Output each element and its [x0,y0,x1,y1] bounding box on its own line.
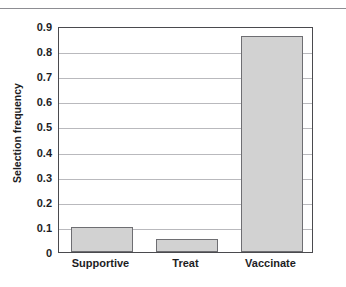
y-tick-label: 0.6 [6,96,52,108]
x-tick-label-treat: Treat [172,257,198,269]
bar-chart-figure: Selection frequency 00.10.20.30.40.50.60… [0,9,346,287]
x-tick-label-vaccinate: Vaccinate [245,257,296,269]
bar-supportive [71,227,133,252]
y-tick-label: 0.3 [6,172,52,184]
bar-vaccinate [241,36,303,252]
plot-area [58,27,313,253]
y-tick-label: 0.9 [6,21,52,33]
y-tick-label: 0 [6,247,52,259]
x-tick-label-supportive: Supportive [72,257,129,269]
y-tick-label: 0.5 [6,121,52,133]
y-tick-label: 0.2 [6,197,52,209]
header-remnant-text: IN THE GRAPH BELOW FOR [0,0,346,1]
bar-treat [156,239,218,252]
y-tick-label: 0.7 [6,71,52,83]
y-tick-label: 0.1 [6,222,52,234]
y-tick-label: 0.8 [6,46,52,58]
y-tick-label: 0.4 [6,147,52,159]
